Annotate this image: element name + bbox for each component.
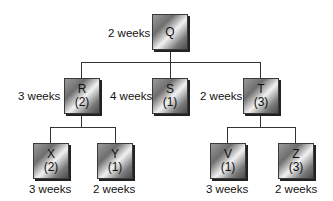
node-z-count: (3) (289, 161, 304, 174)
connector-to-z (295, 127, 296, 143)
node-s-duration: 4 weeks (110, 90, 152, 102)
node-s: S (1) (152, 78, 188, 114)
node-y: Y (1) (97, 143, 133, 179)
node-q: Q (152, 14, 188, 50)
connector-to-s (170, 62, 171, 78)
connector-t-horizontal (227, 127, 296, 128)
connector-q-down (170, 52, 171, 62)
node-x-duration: 3 weeks (29, 183, 71, 195)
connector-to-r (81, 62, 82, 78)
node-q-duration: 2 weeks (108, 27, 150, 39)
node-v-count: (1) (221, 161, 236, 174)
connector-to-x (50, 127, 51, 143)
connector-t-down (260, 114, 261, 127)
node-q-name: Q (165, 26, 174, 39)
node-y-duration: 2 weeks (93, 183, 135, 195)
node-v: V (1) (210, 143, 246, 179)
node-y-count: (1) (108, 161, 123, 174)
connector-to-t (260, 62, 261, 78)
node-x-count: (2) (44, 161, 59, 174)
node-t: T (3) (243, 78, 279, 114)
node-z: Z (3) (278, 143, 314, 179)
node-x: X (2) (33, 143, 69, 179)
node-t-count: (3) (254, 96, 269, 109)
node-v-duration: 3 weeks (206, 183, 248, 195)
connector-to-v (227, 127, 228, 143)
node-r: R (2) (64, 78, 100, 114)
node-r-count: (2) (75, 96, 90, 109)
connector-r-horizontal (50, 127, 116, 128)
node-z-duration: 2 weeks (275, 183, 317, 195)
node-r-duration: 3 weeks (18, 90, 60, 102)
connector-level1-horizontal (81, 62, 261, 63)
connector-r-down (81, 114, 82, 127)
node-s-count: (1) (163, 96, 178, 109)
connector-to-y (115, 127, 116, 143)
node-t-duration: 2 weeks (200, 90, 242, 102)
